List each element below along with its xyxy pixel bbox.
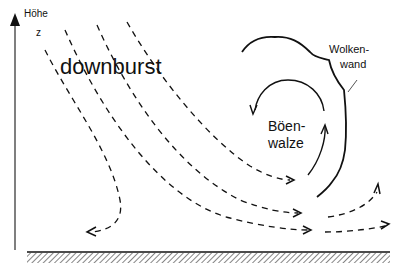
flow-line-6 bbox=[325, 226, 385, 232]
gust-roll-label-line1: Böen- bbox=[268, 119, 305, 133]
downburst-label: downburst bbox=[60, 56, 162, 78]
cloud-wall-pointer bbox=[348, 80, 357, 92]
flow-line-5 bbox=[328, 192, 377, 217]
cloud-wall-label-line2: wand bbox=[340, 59, 366, 70]
arrow-left-icon bbox=[87, 227, 96, 236]
arrow-down-icon bbox=[250, 105, 257, 114]
ground bbox=[27, 252, 390, 263]
axis-arrow-icon bbox=[10, 13, 20, 26]
flow-line-4 bbox=[127, 22, 290, 180]
downburst-diagram bbox=[0, 0, 401, 269]
gust-roll-label-line2: walze bbox=[268, 136, 304, 150]
arrow-right-icon bbox=[381, 221, 389, 229]
flow-arrowheads bbox=[87, 176, 389, 236]
cloud-wall bbox=[242, 37, 346, 197]
cloud-wall-label-line1: Wolken- bbox=[329, 44, 369, 55]
axis-label-height: Höhe bbox=[24, 9, 48, 19]
axis-label-z: z bbox=[36, 28, 41, 38]
height-axis bbox=[10, 13, 20, 250]
